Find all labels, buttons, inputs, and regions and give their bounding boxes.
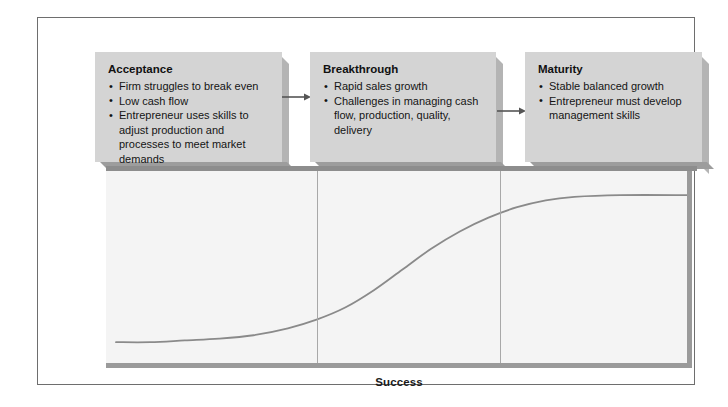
chart-divider-acceptance-breakthrough xyxy=(317,171,318,368)
x-axis-label: Success xyxy=(106,376,692,388)
stage-bullet-list-acceptance: Firm struggles to break even Low cash fl… xyxy=(108,79,270,166)
growth-s-curve-line xyxy=(116,195,689,342)
box-shadow-right-acceptance xyxy=(282,57,289,174)
growth-curve-plot xyxy=(106,171,692,368)
stage-title-acceptance: Acceptance xyxy=(108,62,270,76)
stage-bullet-list-breakthrough: Rapid sales growth Challenges in managin… xyxy=(323,79,484,137)
arrow-acceptance-to-breakthrough-icon xyxy=(282,92,312,102)
growth-curve-chart xyxy=(106,171,692,368)
figure-frame: Acceptance Firm struggles to break even … xyxy=(37,17,695,385)
chart-divider-breakthrough-maturity xyxy=(500,171,501,368)
stage-box-acceptance[interactable]: Acceptance Firm struggles to break even … xyxy=(95,52,282,162)
box-shadow-right-maturity xyxy=(702,57,709,174)
stage-bullet: Firm struggles to break even xyxy=(108,79,270,94)
stage-title-breakthrough: Breakthrough xyxy=(323,62,484,76)
stage-bullet: Stable balanced growth xyxy=(538,79,690,94)
stage-bullet: Entrepreneur uses skills to adjust produ… xyxy=(108,108,270,166)
stage-title-maturity: Maturity xyxy=(538,62,690,76)
stage-box-breakthrough[interactable]: Breakthrough Rapid sales growth Challeng… xyxy=(310,52,496,162)
stage-bullet: Rapid sales growth xyxy=(323,79,484,94)
stage-bullet: Low cash flow xyxy=(108,94,270,109)
stage-bullet-list-maturity: Stable balanced growth Entrepreneur must… xyxy=(538,79,690,123)
stage-bullet: Entrepreneur must develop management ski… xyxy=(538,94,690,123)
stage-box-maturity[interactable]: Maturity Stable balanced growth Entrepre… xyxy=(525,52,702,162)
stage-bullet: Challenges in managing cash flow, produc… xyxy=(323,94,484,138)
arrow-breakthrough-to-maturity-icon xyxy=(497,106,527,116)
